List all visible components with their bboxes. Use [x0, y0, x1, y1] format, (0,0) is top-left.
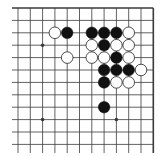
black-stone — [98, 101, 110, 113]
white-stone — [86, 39, 98, 51]
black-stone — [111, 27, 123, 39]
go-board — [0, 0, 161, 156]
white-stone — [135, 64, 147, 76]
black-stone — [86, 27, 98, 39]
white-stone — [123, 27, 135, 39]
white-stone — [98, 52, 110, 64]
black-stone — [111, 52, 123, 64]
star-point — [41, 43, 45, 47]
white-stone — [111, 39, 123, 51]
white-stone — [123, 77, 135, 89]
white-stone — [61, 52, 73, 64]
star-point — [115, 118, 119, 122]
white-stone — [49, 27, 61, 39]
black-stone — [123, 64, 135, 76]
white-stone — [86, 52, 98, 64]
black-stone — [98, 64, 110, 76]
black-stone — [98, 39, 110, 51]
white-stone — [111, 77, 123, 89]
black-stone — [111, 64, 123, 76]
white-stone — [123, 52, 135, 64]
white-stone — [123, 39, 135, 51]
black-stone — [98, 27, 110, 39]
star-point — [41, 118, 45, 122]
black-stone — [98, 77, 110, 89]
black-stone — [61, 27, 73, 39]
